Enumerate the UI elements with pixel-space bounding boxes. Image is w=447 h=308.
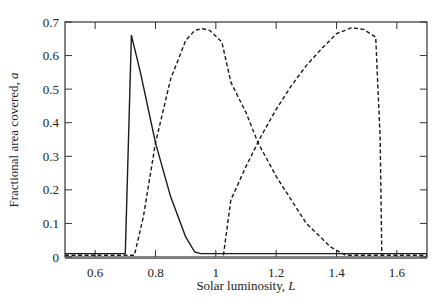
y-tick-label: 0.3 [43, 149, 59, 164]
plot-frame [65, 22, 427, 259]
x-axis-ticks: 0.60.811.21.41.6 [87, 22, 405, 280]
y-tick-label: 0.6 [43, 48, 60, 63]
chart: 0.60.811.21.41.6 00.10.20.30.40.50.60.7 … [0, 0, 447, 308]
y-axis-ticks: 00.10.20.30.40.50.60.7 [43, 15, 427, 265]
y-tick-label: 0.1 [43, 216, 59, 231]
x-tick-label: 0.6 [87, 265, 104, 280]
y-axis-label: Fractional area covered, a [6, 72, 21, 207]
y-tick-label: 0.2 [43, 182, 59, 197]
x-axis-label: Solar luminosity, L [196, 278, 295, 293]
y-tick-label: 0.7 [43, 15, 60, 30]
series-line-3 [223, 28, 381, 256]
plot-border [65, 22, 427, 257]
y-tick-label: 0 [53, 250, 60, 265]
x-tick-label: 1.6 [389, 265, 406, 280]
series-line-1 [65, 35, 427, 253]
x-tick-label: 1.4 [328, 265, 345, 280]
x-tick-label: 0.8 [147, 265, 163, 280]
y-tick-label: 0.4 [43, 115, 60, 130]
series-layer [65, 28, 427, 256]
y-tick-label: 0.5 [43, 82, 59, 97]
series-line-2 [65, 29, 427, 256]
